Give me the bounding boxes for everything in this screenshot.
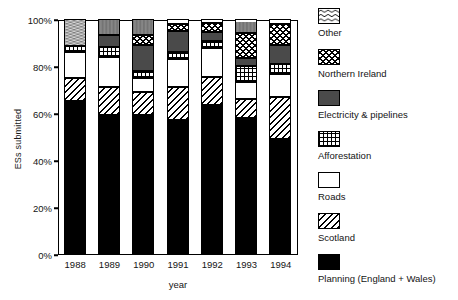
bar-segment (269, 24, 291, 45)
bar-1988 (64, 19, 86, 254)
bar-segment (269, 139, 291, 254)
bar-segment (64, 46, 86, 52)
legend-item: Scotland (318, 213, 458, 254)
bar-segment (201, 77, 223, 105)
bar-segment (235, 19, 257, 33)
legend-item-label: Afforestation (318, 150, 371, 161)
bar-segment (201, 41, 223, 48)
bar-segment (201, 23, 223, 32)
bar-segment (98, 47, 120, 56)
bar-segment (98, 57, 120, 88)
bar-segment (201, 32, 223, 41)
grid-hatch-swatch (318, 131, 340, 147)
bar-segment (167, 52, 189, 59)
bar-segment (235, 58, 257, 66)
bar-segment (132, 92, 154, 116)
bar-segment (269, 45, 291, 64)
y-axis-tick-label: 60% (0, 109, 52, 120)
legend-item: Electricity & pipelines (318, 90, 458, 131)
bar-segment (64, 101, 86, 254)
bar-segment (201, 48, 223, 76)
legend-item-label: Roads (318, 191, 345, 202)
bar-segment (132, 35, 154, 44)
diagonal-hatch-swatch (318, 213, 340, 229)
bar-segment (201, 19, 223, 23)
bar-segment (132, 78, 154, 92)
y-axis-tick-label: 100% (0, 15, 52, 26)
plot-area (58, 20, 298, 255)
bar-1993 (235, 19, 257, 254)
bar-segment (64, 52, 86, 78)
legend-item-label: Scotland (318, 232, 355, 243)
y-axis-tick-label: 40% (0, 156, 52, 167)
bar-segment (167, 120, 189, 254)
bar-segment (167, 24, 189, 31)
legend-item: Roads (318, 172, 458, 213)
legend-item: Planning (England + Wales) (318, 254, 458, 295)
bar-segment (235, 82, 257, 98)
bar-1991 (167, 19, 189, 254)
bar-1994 (269, 19, 291, 254)
bar-segment (269, 19, 291, 24)
legend-item-label: Other (318, 27, 342, 38)
solid-black-swatch (318, 254, 340, 270)
bar-segment (201, 105, 223, 254)
bar-segment (132, 45, 154, 71)
bar-segment (64, 19, 86, 46)
legend-item-label: Northern Ireland (318, 68, 387, 79)
bar-segment (98, 115, 120, 254)
bar-1990 (132, 19, 154, 254)
bar-segment (132, 19, 154, 35)
blank-white-swatch (318, 172, 340, 188)
bar-segment (269, 74, 291, 96)
y-axis-tick-label: 0% (0, 250, 52, 261)
bar-segment (235, 118, 257, 254)
bar-segment (235, 33, 257, 58)
bar-segment (269, 97, 291, 139)
legend-item-label: Electricity & pipelines (318, 109, 408, 120)
bar-segment (269, 64, 291, 75)
bar-segment (132, 115, 154, 254)
x-axis-tick-label-1994: 1994 (259, 259, 303, 270)
bar-1992 (201, 19, 223, 254)
bar-segment (98, 35, 120, 47)
bar-segment (98, 87, 120, 115)
legend-item: Other (318, 8, 458, 49)
bar-segment (235, 99, 257, 118)
cross-diagonal-hatch-swatch (318, 49, 340, 65)
legend-item-label: Planning (England + Wales) (318, 273, 436, 284)
bar-segment (167, 31, 189, 52)
y-axis-tick-label: 80% (0, 62, 52, 73)
bar-segment (64, 78, 86, 102)
x-axis-title: year (58, 279, 298, 290)
stacked-bar-chart-figure: ESs submitted 0%20%40%60%80%100% 1988198… (0, 0, 458, 300)
legend-item: Afforestation (318, 131, 458, 172)
y-axis-tick-label: 20% (0, 203, 52, 214)
bar-segment (235, 66, 257, 82)
bar-segment (167, 19, 189, 24)
bar-segment (167, 87, 189, 120)
bar-segment (98, 19, 120, 35)
legend-item: Northern Ireland (318, 49, 458, 90)
bar-segment (132, 71, 154, 78)
solid-dark-grey-swatch (318, 90, 340, 106)
wavy-lines-swatch (318, 8, 340, 24)
bar-segment (167, 59, 189, 87)
bar-1989 (98, 19, 120, 254)
